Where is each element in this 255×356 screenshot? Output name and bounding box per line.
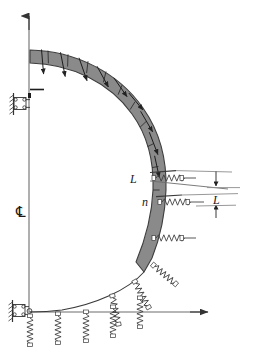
spring-radial-2 [131, 279, 152, 311]
label-dimension-L: L [213, 194, 220, 206]
label-spring-length-L: L [130, 173, 137, 185]
label-centerline: ℄ [16, 205, 24, 220]
support-upper-left [10, 93, 32, 115]
support-lower-left [9, 300, 32, 322]
spring-radial-3 [109, 293, 122, 326]
label-spring-index-n: n [142, 196, 148, 208]
meridian-lower-curve [30, 272, 144, 312]
spring-vertical-3 [83, 310, 89, 343]
spring-radial-1 [150, 262, 179, 288]
dimension-L-extension-lines [176, 171, 238, 195]
spring-vertical-2 [55, 312, 61, 345]
spring-vertical-1 [27, 314, 33, 347]
shell-body [30, 50, 166, 272]
diagram-canvas [0, 0, 255, 356]
